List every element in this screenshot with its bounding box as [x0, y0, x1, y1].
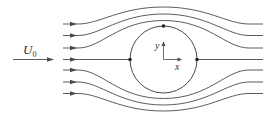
flow-diagram: U0: [0, 0, 277, 117]
streamline-lower-3: [63, 94, 263, 112]
rear-stagnation-point: [195, 58, 199, 62]
arrowhead-icon: [70, 33, 77, 37]
streamline-upper-3: [63, 7, 263, 24]
streamline-arrowheads: [70, 22, 77, 96]
arrowhead-icon: [70, 46, 77, 50]
flow-diagram-canvas: U0: [0, 0, 277, 117]
x-axis-label: x: [174, 61, 180, 72]
arrowhead-icon: [70, 68, 77, 72]
arrowhead-icon: [70, 80, 77, 84]
streamlines: [63, 7, 263, 111]
coordinate-axes: [164, 44, 181, 60]
arrowhead-icon: [70, 22, 77, 26]
front-stagnation-point: [128, 58, 132, 62]
arrowhead-icon: [70, 57, 77, 61]
y-axis-arrow-icon: [162, 42, 166, 47]
arrowhead-icon: [70, 91, 77, 95]
streamline-lower-1: [63, 70, 263, 99]
y-axis-label: y: [154, 40, 160, 51]
top-point: [162, 24, 166, 28]
streamline-lower-2: [63, 82, 263, 105]
freestream-label: U0: [23, 42, 36, 59]
